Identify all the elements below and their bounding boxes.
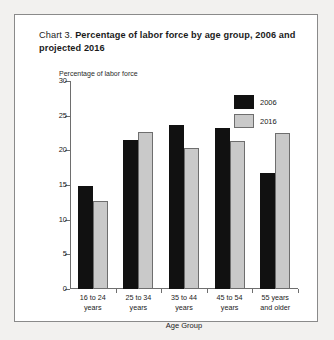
bar-2016-25-to-34-years[interactable] <box>138 132 153 289</box>
legend-swatch <box>234 95 254 109</box>
bar-group <box>123 81 153 289</box>
x-axis-category-label: 35 to 44years <box>161 293 207 312</box>
bar-2016-45-to-54-years[interactable] <box>230 141 245 289</box>
bar-2006-16-to-24-years[interactable] <box>78 186 93 289</box>
legend-swatch <box>234 114 254 128</box>
x-tick-mark <box>298 289 299 293</box>
bar-2016-55-years-and-older[interactable] <box>275 133 290 289</box>
chart-card: Chart 3. Percentage of labor force by ag… <box>14 14 318 322</box>
y-tick-label: 20 <box>59 145 67 154</box>
x-axis-category-label: 16 to 24years <box>70 293 116 312</box>
y-axis-title: Percentage of labor force <box>59 70 138 77</box>
x-axis-category-label: 45 to 54years <box>207 293 253 312</box>
bar-2006-45-to-54-years[interactable] <box>215 128 230 289</box>
y-axis-line <box>70 81 71 289</box>
chart-title-main: Percentage of labor force by age group, … <box>39 30 295 53</box>
y-tick-label: 30 <box>59 76 67 85</box>
x-axis-category-label: 25 to 34years <box>116 293 162 312</box>
chart-title: Chart 3. Percentage of labor force by ag… <box>39 29 297 55</box>
y-tick-label: 25 <box>59 111 67 120</box>
legend-item-2016[interactable]: 2016 <box>234 114 277 128</box>
chart-title-prefix: Chart 3. <box>39 30 72 40</box>
x-axis-title: Age Group <box>70 321 298 330</box>
bar-2016-35-to-44-years[interactable] <box>184 148 199 289</box>
y-tick-label: 5 <box>63 249 67 258</box>
x-axis-category-label: 55 yearsand older <box>252 293 298 312</box>
bar-2006-25-to-34-years[interactable] <box>123 140 138 289</box>
legend-label: 2006 <box>260 98 277 107</box>
chart-legend: 20062016 <box>234 95 277 133</box>
bar-group <box>78 81 108 289</box>
y-tick-label: 15 <box>59 180 67 189</box>
bar-2016-16-to-24-years[interactable] <box>93 201 108 289</box>
bar-2006-35-to-44-years[interactable] <box>169 125 184 289</box>
page-background: Chart 3. Percentage of labor force by ag… <box>0 0 334 340</box>
legend-item-2006[interactable]: 2006 <box>234 95 277 109</box>
bar-2006-55-years-and-older[interactable] <box>260 173 275 289</box>
legend-label: 2016 <box>260 117 277 126</box>
bar-group <box>169 81 199 289</box>
y-tick-label: 10 <box>59 215 67 224</box>
y-tick-label: 0 <box>63 284 67 293</box>
